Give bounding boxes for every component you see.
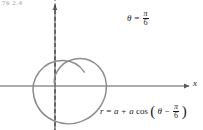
- theta-fraction-denominator: 6: [143, 19, 149, 27]
- equation-theta-symbol: θ: [157, 106, 161, 116]
- polar-cardioid-figure: 76 2.4 θ = π 6 x r = a + a cos ( θ − π 6…: [0, 0, 203, 130]
- polar-equation-label: r = a + a cos ( θ − π 6 ): [100, 103, 187, 121]
- equation-minus-sign: −: [164, 106, 170, 116]
- equation-equals-sign: =: [106, 106, 112, 116]
- equation-open-paren: (: [150, 103, 155, 119]
- equation-cos-function: cos: [136, 106, 148, 116]
- equation-fraction: π 6: [173, 103, 179, 121]
- equation-close-paren: ): [182, 103, 187, 119]
- theta-symbol: θ: [127, 13, 131, 23]
- equation-plus-sign: +: [121, 106, 127, 116]
- theta-equals-sign: =: [134, 13, 140, 23]
- equation-term-a2: a: [129, 106, 134, 116]
- equation-term-a1: a: [114, 106, 119, 116]
- equation-lhs: r: [100, 106, 104, 116]
- theta-fraction: π 6: [143, 10, 149, 28]
- x-axis-label: x: [193, 79, 197, 88]
- page-header-text: 76 2.4: [2, 0, 23, 7]
- equation-fraction-denominator: 6: [173, 112, 179, 120]
- theta-equation-label: θ = π 6: [127, 10, 149, 28]
